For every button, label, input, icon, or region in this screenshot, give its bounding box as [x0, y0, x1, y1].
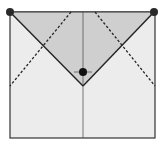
center-dot: [79, 68, 87, 76]
top-left-dot: [6, 8, 14, 16]
fold-diagram: [0, 0, 161, 141]
top-right-dot: [150, 8, 158, 16]
